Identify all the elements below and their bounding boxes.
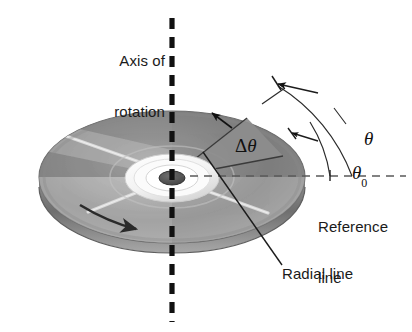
theta-arrow-tick bbox=[272, 76, 281, 90]
axis-of-rotation-line1: Axis of bbox=[60, 52, 165, 69]
axis-of-rotation-line2: rotation bbox=[60, 103, 165, 120]
theta-zero-symbol: θ bbox=[352, 162, 361, 183]
axis-of-rotation-label: Axis of rotation bbox=[60, 18, 165, 154]
radial-line-label: Radial line bbox=[282, 265, 353, 282]
reference-line-line1: Reference bbox=[318, 218, 410, 235]
theta-zero-label: θ0 bbox=[333, 144, 367, 209]
theta-zero-arrow bbox=[292, 133, 318, 141]
delta-theta-symbol: θ bbox=[247, 135, 256, 156]
delta-symbol: Δ bbox=[235, 135, 247, 156]
theta-radius-extension bbox=[262, 88, 285, 104]
delta-theta-label: Δθ bbox=[216, 117, 257, 174]
theta-zero-subscript: 0 bbox=[361, 176, 367, 190]
rotating-disc-figure: Axis of rotation Reference line Radial l… bbox=[0, 0, 412, 332]
